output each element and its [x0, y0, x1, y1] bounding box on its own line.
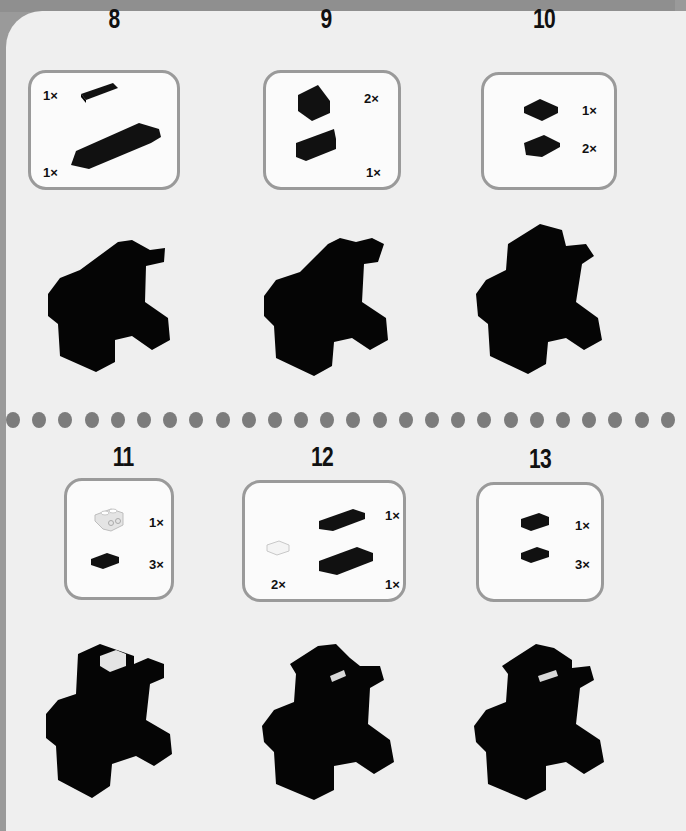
step-number-11: 11: [100, 442, 147, 473]
divider-dot: [635, 412, 649, 428]
divider-dot: [477, 412, 491, 428]
step-number-10: 10: [521, 4, 568, 35]
plate-1x4-icon: [31, 73, 181, 191]
parts-callout-step-8: 1× 1×: [28, 70, 180, 190]
white-bracket-icon: [67, 481, 175, 601]
divider-dot: [346, 412, 360, 428]
divider-dot: [137, 412, 151, 428]
model-step-10: [476, 224, 602, 374]
step-number-12: 12: [299, 442, 346, 473]
divider-dot: [582, 412, 596, 428]
model-step-12: [262, 644, 394, 800]
divider-dot: [189, 412, 203, 428]
model-step-9: [264, 238, 388, 376]
divider-dot: [399, 412, 413, 428]
parts-callout-step-10: 1× 2×: [481, 72, 617, 190]
divider-dot: [294, 412, 308, 428]
divider-dot: [425, 412, 439, 428]
parts-callout-step-12: 1× 2× 1×: [242, 480, 406, 602]
step-number-13: 13: [517, 444, 564, 475]
divider-dot: [58, 412, 72, 428]
divider-dot: [268, 412, 282, 428]
model-step-13: [474, 644, 604, 800]
divider-dot: [661, 412, 675, 428]
divider-dot: [556, 412, 570, 428]
divider-dot: [504, 412, 518, 428]
divider-dot: [608, 412, 622, 428]
divider-dot: [242, 412, 256, 428]
model-illustrations-row-1: [0, 200, 675, 400]
model-step-8: [48, 240, 170, 372]
slope-brick-icon: [266, 73, 402, 191]
tile-1x2-icon: [479, 485, 605, 603]
plate-2x2-icon: [484, 75, 618, 191]
parts-callout-step-13: 1× 3×: [476, 482, 604, 602]
parts-callout-step-11: 1× 3×: [64, 478, 174, 600]
divider-dot: [111, 412, 125, 428]
divider-dot: [216, 412, 230, 428]
divider-dot: [85, 412, 99, 428]
divider-dot: [320, 412, 334, 428]
divider-dot: [530, 412, 544, 428]
divider-dot: [163, 412, 177, 428]
step-number-8: 8: [91, 4, 138, 35]
parts-callout-step-9: 2× 1×: [263, 70, 401, 190]
model-step-11: [46, 644, 172, 798]
model-illustrations-row-2: [0, 614, 675, 814]
divider-dot: [373, 412, 387, 428]
step-number-9: 9: [303, 4, 350, 35]
divider-dot: [32, 412, 46, 428]
divider-dot: [451, 412, 465, 428]
section-divider-dots: [6, 412, 675, 432]
divider-dot: [6, 412, 20, 428]
plate-and-tile-icon: [245, 483, 407, 603]
